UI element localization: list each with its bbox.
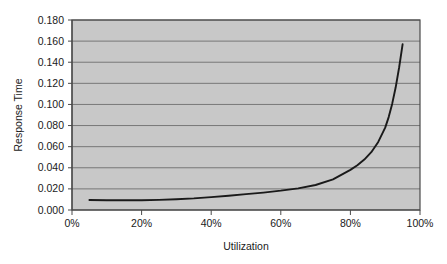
y-axis-title: Response Time bbox=[12, 78, 24, 151]
x-tick-label: 0% bbox=[64, 217, 79, 229]
x-axis-tick-marks bbox=[72, 210, 420, 215]
y-tick-label: 0.000 bbox=[38, 204, 64, 216]
x-axis-tick-labels: 0%20%40%60%80%100% bbox=[64, 217, 433, 229]
y-tick-label: 0.180 bbox=[38, 14, 64, 26]
y-tick-label: 0.100 bbox=[38, 98, 64, 110]
chart-container: 0.0000.0200.0400.0600.0800.1000.1200.140… bbox=[0, 0, 447, 264]
y-tick-label: 0.160 bbox=[38, 35, 64, 47]
chart-svg: 0.0000.0200.0400.0600.0800.1000.1200.140… bbox=[0, 0, 447, 264]
y-tick-label: 0.080 bbox=[38, 119, 64, 131]
x-tick-label: 60% bbox=[270, 217, 291, 229]
y-tick-label: 0.120 bbox=[38, 77, 64, 89]
y-tick-label: 0.040 bbox=[38, 161, 64, 173]
x-tick-label: 20% bbox=[131, 217, 152, 229]
x-tick-label: 40% bbox=[201, 217, 222, 229]
y-tick-label: 0.140 bbox=[38, 56, 64, 68]
y-tick-label: 0.020 bbox=[38, 182, 64, 194]
plot-area-background bbox=[72, 20, 420, 210]
x-axis-title: Utilization bbox=[223, 240, 269, 252]
y-axis-tick-labels: 0.0000.0200.0400.0600.0800.1000.1200.140… bbox=[38, 14, 64, 216]
x-tick-label: 80% bbox=[340, 217, 361, 229]
x-tick-label: 100% bbox=[407, 217, 434, 229]
y-tick-label: 0.060 bbox=[38, 140, 64, 152]
